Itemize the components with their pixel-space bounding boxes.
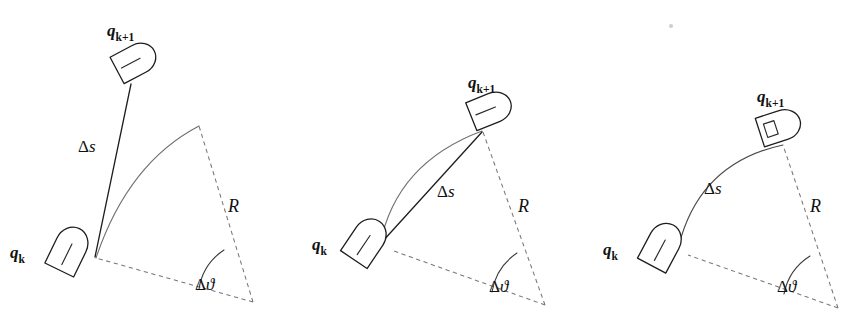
motion-arc [96, 126, 199, 258]
scan-speck [669, 24, 673, 28]
panel-right: qk qk+1 Δs R Δϑ [603, 87, 838, 308]
label-q-k: qk [10, 243, 26, 265]
label-delta-theta: Δϑ [195, 275, 216, 294]
robot-q-k-plus-1 [755, 105, 804, 147]
robot-q-k [341, 212, 393, 268]
label-q-k: qk [312, 235, 328, 257]
label-radius-R: R [517, 196, 529, 216]
label-radius-R: R [227, 196, 239, 216]
delta-s-segment [372, 132, 482, 253]
robot-q-k [637, 218, 687, 274]
delta-s-segment [95, 84, 131, 257]
label-q-k: qk [603, 240, 619, 262]
radius-dashed-to-start [96, 258, 253, 302]
label-delta-s: Δs [437, 182, 455, 201]
panel-middle: qk qk+1 Δs R Δϑ [312, 73, 545, 305]
label-q-k-plus-1: qk+1 [757, 87, 784, 109]
label-delta-s: Δs [704, 179, 722, 198]
figure-canvas: qk qk+1 Δs R Δϑ qk qk+1 Δs R Δϑ [0, 0, 867, 332]
robot-body-outline [755, 105, 804, 147]
delta-s-arc [679, 145, 783, 245]
label-delta-theta: Δϑ [489, 277, 510, 296]
radius-dashed-to-start [391, 250, 545, 305]
label-delta-theta: Δϑ [777, 277, 798, 296]
robot-q-k [45, 222, 94, 277]
panel-left: qk qk+1 Δs R Δϑ [10, 21, 253, 302]
label-delta-s: Δs [78, 137, 96, 156]
diagram-svg: qk qk+1 Δs R Δϑ qk qk+1 Δs R Δϑ [0, 0, 867, 332]
robot-q-k-plus-1 [110, 37, 161, 83]
radius-dashed-to-start [688, 255, 838, 308]
label-radius-R: R [809, 196, 821, 216]
label-q-k-plus-1: qk+1 [468, 73, 495, 95]
label-q-k-plus-1: qk+1 [107, 21, 134, 43]
